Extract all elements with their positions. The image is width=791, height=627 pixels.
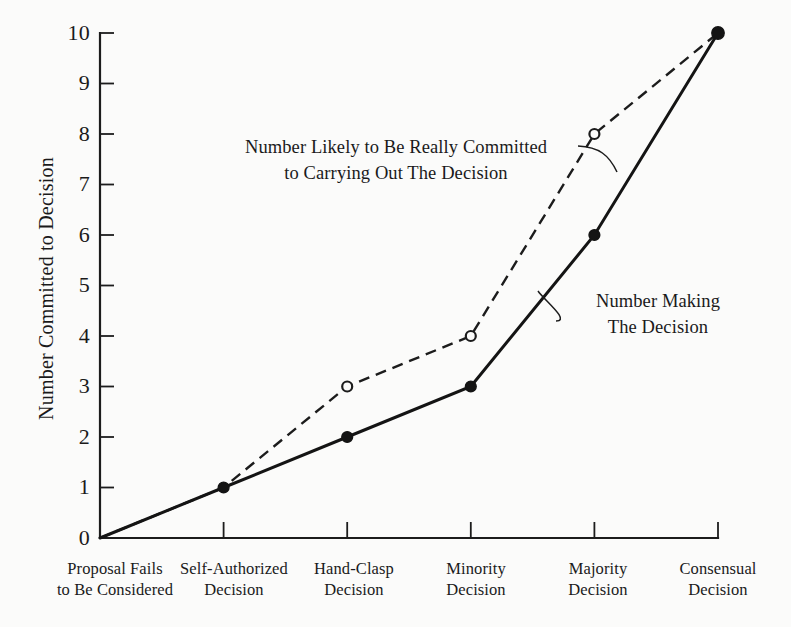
xtick-label-consensual: Consensual Decision <box>654 558 782 600</box>
annotation-line1: Number Likely to Be Really Committed <box>245 137 547 157</box>
xtick-label-line2: Decision <box>164 579 304 600</box>
xtick-label-line1: Minority <box>446 559 505 578</box>
ytick-label-10: 10 <box>44 22 90 44</box>
xtick-label-line2: Decision <box>654 579 782 600</box>
annotation-line1: Number Making <box>596 291 720 311</box>
annotation-line2: The Decision <box>558 314 758 340</box>
chart-page: 10 9 8 7 6 5 4 3 2 1 0 Number Committed … <box>0 0 791 627</box>
xtick-label-line1: Consensual <box>679 559 756 578</box>
ytick-label-0: 0 <box>44 527 90 549</box>
y-axis-title: Number Committed to Decision <box>35 79 58 499</box>
annotation-making: Number Making The Decision <box>558 288 758 340</box>
x-axis-ticks <box>224 522 718 538</box>
xtick-label-line2: Decision <box>414 579 538 600</box>
annotation-committed: Number Likely to Be Really Committed to … <box>196 134 596 186</box>
xtick-label-hand-clasp: Hand-Clasp Decision <box>289 558 419 600</box>
xtick-label-majority: Majority Decision <box>536 558 660 600</box>
xtick-label-line1: Proposal Fails <box>67 559 162 578</box>
xtick-label-line1: Majority <box>569 559 628 578</box>
xtick-label-line1: Hand-Clasp <box>314 559 394 578</box>
xtick-label-line1: Self-Authorized <box>180 559 288 578</box>
xtick-label-line2: Decision <box>289 579 419 600</box>
series-markers-making <box>218 27 724 493</box>
series-line-committed <box>100 33 718 538</box>
annotation-line2: to Carrying Out The Decision <box>196 160 596 186</box>
y-axis-ticks <box>100 33 114 488</box>
xtick-label-line2: Decision <box>536 579 660 600</box>
xtick-label-minority: Minority Decision <box>414 558 538 600</box>
xtick-label-self-authorized: Self-Authorized Decision <box>164 558 304 600</box>
